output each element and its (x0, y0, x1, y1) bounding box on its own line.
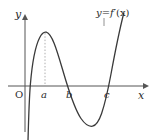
derivative-curve (28, 13, 124, 140)
y-axis-arrowhead (22, 14, 28, 20)
equation-argument: (x) (116, 7, 129, 18)
y-axis-label: y (15, 9, 21, 20)
x-tick-label-a: a (41, 90, 47, 100)
derivative-graph-figure: y x O a b c y=f′(x) (0, 0, 161, 140)
curve-equation-label: y=f′(x) (96, 8, 129, 18)
x-tick-label-b: b (66, 90, 72, 100)
x-axis-label: x (138, 90, 144, 101)
graph-canvas (0, 0, 161, 140)
x-tick-label-c: c (104, 90, 110, 100)
equation-equals: = (102, 7, 110, 18)
origin-label: O (15, 90, 23, 100)
